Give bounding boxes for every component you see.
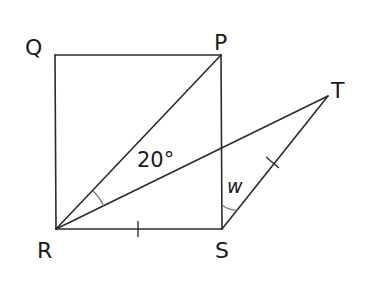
segment-qr <box>55 55 56 229</box>
angle-arc-pst <box>222 205 237 210</box>
segment-st <box>222 96 328 229</box>
angle-label-w: w <box>227 175 243 197</box>
vertex-label-t: T <box>330 78 345 103</box>
segment-rt <box>56 96 328 229</box>
vertex-label-q: Q <box>25 35 42 60</box>
segment-ps <box>221 55 222 229</box>
angle-arc-prt <box>93 191 104 206</box>
angle-label-20: 20° <box>137 148 174 172</box>
vertex-label-s: S <box>215 238 229 263</box>
segment-rp <box>56 55 221 229</box>
geometry-diagram: Q P T R S 20° w <box>0 0 365 281</box>
vertex-label-p: P <box>214 30 227 55</box>
vertex-label-r: R <box>37 238 52 263</box>
